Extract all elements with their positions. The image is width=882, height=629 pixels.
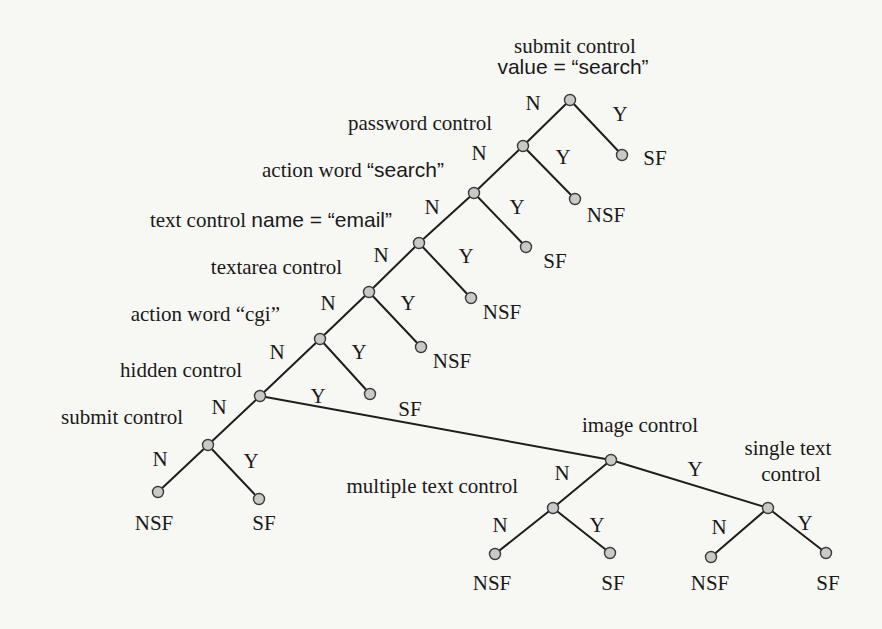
decision-node-multiple-text: [548, 503, 559, 514]
decision-node-image: [606, 455, 617, 466]
leaf-label-sf: SF: [252, 511, 275, 535]
leaf-node: [365, 389, 376, 400]
branch-label-yes: Y: [555, 145, 570, 169]
leaf-label-sf: SF: [816, 571, 839, 595]
node-label-part: action word: [262, 158, 367, 182]
leaf-node: [617, 150, 628, 161]
branch-label-no: N: [554, 461, 569, 485]
node-label-email: text control name = “email”: [150, 208, 392, 232]
decision-node-submit: [203, 440, 214, 451]
branch-label-no: N: [269, 340, 284, 364]
decision-node-cgi: [315, 334, 326, 345]
node-label-action-search: action word “search”: [262, 158, 444, 182]
leaf-node: [570, 194, 581, 205]
node-label-part: textarea control: [211, 255, 342, 279]
branch-label-yes: Y: [310, 384, 325, 408]
node-label-single-text: control: [761, 462, 821, 486]
leaf-label-nsf: NSF: [433, 349, 472, 373]
leaf-node: [821, 548, 832, 559]
decision-node-textarea: [364, 287, 375, 298]
branch-label-no: N: [424, 195, 439, 219]
branch-label-no: N: [373, 243, 388, 267]
leaf-node: [466, 293, 477, 304]
branch-label-yes: Y: [612, 102, 627, 126]
leaf-label-sf: SF: [601, 571, 624, 595]
branch-label-yes: Y: [589, 513, 604, 537]
node-label-part: action word “cgi”: [131, 302, 280, 326]
node-label-part: control: [761, 462, 821, 486]
leaf-node: [605, 548, 616, 559]
branch-label-yes: Y: [243, 449, 258, 473]
node-label-part: submit control: [61, 405, 183, 429]
node-labels: submit controlvalue = “search”password c…: [61, 34, 840, 595]
branch-label-no: N: [211, 395, 226, 419]
branch-label-no: N: [471, 141, 486, 165]
leaf-node: [521, 242, 532, 253]
node-label-image: image control: [582, 413, 698, 437]
leaf-label-nsf: NSF: [473, 571, 512, 595]
leaf-label-nsf: NSF: [587, 203, 626, 227]
leaf-label-sf: SF: [643, 146, 666, 170]
branch-label-no: N: [492, 513, 507, 537]
decision-node-root: [565, 95, 576, 106]
node-label-hidden: hidden control: [120, 358, 242, 382]
decision-node-action-search: [469, 188, 480, 199]
leaf-node: [153, 487, 164, 498]
node-label-part: text control: [150, 208, 251, 232]
branch-label-yes: Y: [400, 291, 415, 315]
node-label-part: password control: [348, 111, 492, 135]
node-label-root: value = “search”: [497, 55, 648, 78]
branch-label-yes: Y: [797, 511, 812, 535]
node-label-cgi: action word “cgi”: [131, 302, 280, 326]
branch-label-no: N: [525, 91, 540, 115]
node-label-part: image control: [582, 413, 698, 437]
leaf-node: [254, 494, 265, 505]
branch-label-yes: Y: [351, 340, 366, 364]
node-label-part: “search”: [367, 158, 444, 181]
decision-node-password: [518, 141, 529, 152]
decision-node-email: [414, 238, 425, 249]
node-label-part: multiple text control: [347, 474, 519, 498]
node-label-password: password control: [348, 111, 492, 135]
leaf-label-nsf: NSF: [483, 300, 522, 324]
branch-label-no: N: [711, 515, 726, 539]
branch-label-no: N: [152, 447, 167, 471]
leaf-node: [416, 342, 427, 353]
node-label-part: value = “search”: [497, 55, 648, 78]
node-label-multiple-text: multiple text control: [347, 474, 519, 498]
leaf-label-nsf: NSF: [691, 571, 730, 595]
decision-node-hidden: [255, 391, 266, 402]
leaf-label-nsf: NSF: [135, 511, 174, 535]
node-label-textarea: textarea control: [211, 255, 342, 279]
node-label-single-text: single text: [745, 436, 832, 460]
node-label-submit: submit control: [61, 405, 183, 429]
node-label-part: single text: [745, 436, 832, 460]
decision-tree-diagram: NYNYNYNYNYNYNYNYNYNYNY submit controlval…: [0, 0, 882, 629]
branch-label-yes: Y: [509, 195, 524, 219]
branch-label-yes: Y: [458, 244, 473, 268]
branch-label-yes: Y: [687, 457, 702, 481]
leaf-label-sf: SF: [398, 397, 421, 421]
node-label-part: hidden control: [120, 358, 242, 382]
branch-label-no: N: [320, 291, 335, 315]
leaf-label-sf: SF: [543, 249, 566, 273]
node-label-part: name = “email”: [251, 208, 392, 231]
leaf-node: [490, 549, 501, 560]
leaf-node: [706, 552, 717, 563]
decision-node-single-text: [763, 503, 774, 514]
